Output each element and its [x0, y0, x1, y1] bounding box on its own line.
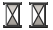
hourglass-icon[interactable] [28, 2, 49, 28]
hourglass-icon[interactable] [2, 2, 23, 28]
icon-strip [0, 0, 53, 30]
